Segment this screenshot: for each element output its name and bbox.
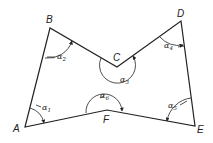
vertex-label-D: D bbox=[177, 8, 184, 19]
vertex-label-A: A bbox=[12, 123, 20, 134]
vertex-label-F: F bbox=[103, 114, 110, 125]
leader-alpha1 bbox=[36, 105, 41, 107]
polygon-diagram: A B C D E F α1 α2 α3 α4 α5 α6 bbox=[0, 0, 213, 143]
vertex-label-C: C bbox=[113, 52, 121, 63]
vertex-label-E: E bbox=[197, 124, 204, 135]
angle-label-alpha1: α1 bbox=[42, 103, 51, 113]
angle-label-alpha2: α2 bbox=[57, 52, 66, 62]
angle-label-alpha5: α5 bbox=[168, 101, 177, 111]
vertex-label-B: B bbox=[46, 14, 53, 25]
leader-alpha4 bbox=[178, 46, 184, 47]
angle-label-alpha3: α3 bbox=[120, 75, 129, 85]
angle-label-alpha4: α4 bbox=[164, 41, 173, 51]
angle-label-alpha6: α6 bbox=[100, 91, 109, 101]
